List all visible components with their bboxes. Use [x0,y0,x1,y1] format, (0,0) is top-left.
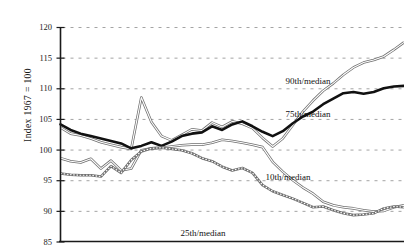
line-chart-plot [0,0,404,247]
series-lines-group [61,42,404,215]
y-tick-label: 110 [26,84,52,93]
y-tick-label: 85 [26,238,52,247]
series-label-25th-median: 25th/median [181,229,226,238]
chart-container: Index 1967 = 100 859095100105110115120 9… [0,0,404,247]
y-tick-label: 100 [26,146,52,155]
y-tick-label: 115 [26,54,52,63]
gridlines-group [63,28,404,212]
y-tick-label: 105 [26,115,52,124]
series-25th-median [61,148,404,215]
series-label-90th-median: 90th/median [286,77,331,86]
series-label-75th-median: 75th/median [286,110,331,119]
series-label-10th-median: 10th/median [266,173,311,182]
y-tick-label: 95 [26,176,52,185]
y-tick-label: 90 [26,207,52,216]
series-10th-median [61,140,404,212]
y-tick-label: 120 [26,23,52,32]
series-75th-median [61,86,404,149]
